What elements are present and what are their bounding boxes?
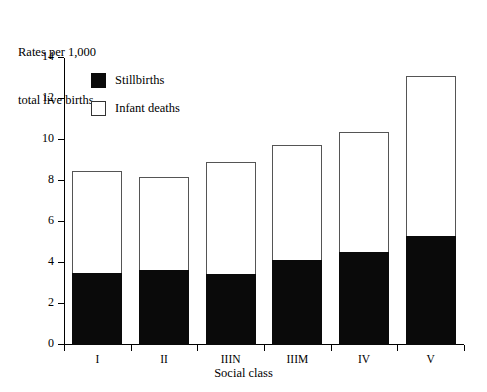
y-axis-tick-label: 8 <box>48 172 54 186</box>
x-axis-tick <box>264 345 265 351</box>
legend-item[interactable]: Infant deaths <box>91 94 180 122</box>
y-axis-tick-label: 0 <box>48 336 54 350</box>
bar-segment-infant-deaths[interactable] <box>206 162 256 275</box>
x-axis-tick <box>64 345 65 351</box>
x-axis-tick-label: IIIN <box>221 353 241 366</box>
bar-segment-stillbirths[interactable] <box>272 260 322 345</box>
y-axis-tick: 8 <box>58 180 64 181</box>
bar-group[interactable]: I <box>72 171 122 345</box>
y-axis-tick-label: 14 <box>42 49 54 63</box>
x-axis-tick-label: I <box>95 353 99 366</box>
legend-swatch-icon <box>91 101 106 116</box>
x-axis-tick-label: II <box>160 353 168 366</box>
y-axis-tick-label: 6 <box>48 213 54 227</box>
y-axis-tick-label: 4 <box>48 254 54 268</box>
y-axis-tick: 14 <box>58 57 64 58</box>
bar-segment-stillbirths[interactable] <box>72 273 122 345</box>
y-axis-tick: 4 <box>58 262 64 263</box>
y-axis-line <box>64 58 65 345</box>
y-axis-tick-label: 12 <box>42 90 54 104</box>
x-axis-title: Social class <box>0 366 487 380</box>
bar-segment-stillbirths[interactable] <box>206 274 256 345</box>
bar-segment-infant-deaths[interactable] <box>272 145 322 260</box>
x-axis-tick <box>331 345 332 351</box>
bar-group[interactable]: IIIN <box>206 162 256 345</box>
bar-group[interactable]: V <box>406 76 456 345</box>
x-axis-tick-label: IV <box>358 353 370 366</box>
x-axis-tick <box>131 345 132 351</box>
x-axis-tick <box>197 345 198 351</box>
bar-segment-stillbirths[interactable] <box>406 236 456 345</box>
x-axis-tick-label: V <box>427 353 435 366</box>
chart-legend: StillbirthsInfant deaths <box>91 66 180 122</box>
bar-segment-infant-deaths[interactable] <box>339 132 389 252</box>
x-axis-tick <box>397 345 398 351</box>
bar-segment-infant-deaths[interactable] <box>139 177 189 270</box>
y-axis-tick: 2 <box>58 303 64 304</box>
y-axis-tick-label: 10 <box>42 131 54 145</box>
bar-segment-stillbirths[interactable] <box>139 270 189 345</box>
legend-swatch-icon <box>91 73 106 88</box>
y-axis-tick: 10 <box>58 139 64 140</box>
bar-group[interactable]: IIIM <box>272 145 322 345</box>
y-axis-tick: 6 <box>58 221 64 222</box>
x-axis-tick-label: IIIM <box>286 353 308 366</box>
bar-segment-infant-deaths[interactable] <box>406 76 456 236</box>
legend-item-label: Stillbirths <box>115 73 164 87</box>
bar-group[interactable]: II <box>139 177 189 345</box>
bar-segment-stillbirths[interactable] <box>339 252 389 345</box>
bar-group[interactable]: IV <box>339 132 389 345</box>
legend-item[interactable]: Stillbirths <box>91 66 180 94</box>
legend-item-label: Infant deaths <box>115 101 180 115</box>
bar-segment-infant-deaths[interactable] <box>72 171 122 274</box>
y-axis-tick: 12 <box>58 98 64 99</box>
y-axis-tick-label: 2 <box>48 295 54 309</box>
x-axis-tick <box>464 345 465 351</box>
